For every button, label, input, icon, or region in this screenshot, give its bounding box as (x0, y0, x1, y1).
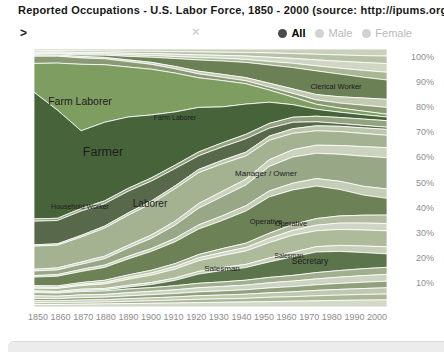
band-label-laborer: Laborer (133, 198, 168, 209)
toolbar: > × AllMaleFemale (0, 25, 444, 41)
filter-male-radio[interactable]: Male (315, 27, 352, 39)
band-label-manager-owner: Manager / Owner (235, 169, 297, 178)
band-label-clerical-worker: Clerical Worker (310, 82, 362, 91)
y-axis-tick: 30% (394, 228, 434, 238)
search-prompt: > (20, 26, 27, 40)
y-axis-tick: 80% (394, 102, 434, 112)
filter-female-radio[interactable]: Female (362, 27, 412, 39)
y-axis-tick: 50% (394, 178, 434, 188)
band-label-salesman: Salesman (204, 264, 240, 273)
band-label-farmer: Farmer (83, 145, 123, 159)
y-axis-tick: 70% (394, 127, 434, 137)
band-label-household-worker: Household Worker (51, 203, 110, 210)
filter-all-radio[interactable]: All (278, 27, 305, 39)
band-label-farm-laborer: Farm Laborer (48, 95, 112, 107)
stacked-area-chart[interactable]: Farm LaborerFarm LaborerFarmerHousehold … (34, 49, 387, 307)
y-axis-tick: 20% (394, 253, 434, 263)
filter-label: Male (328, 27, 352, 39)
y-axis-tick: 40% (394, 203, 434, 213)
filter-label: Female (375, 27, 412, 39)
clear-search-icon[interactable]: × (192, 25, 200, 39)
radio-dot-icon (278, 29, 287, 38)
radio-dot-icon (315, 29, 324, 38)
search-input[interactable] (33, 26, 187, 41)
x-axis-tick: 2000 (362, 312, 392, 322)
filter-label: All (291, 27, 305, 39)
y-axis-tick: 10% (394, 278, 434, 288)
footer-panel-edge (8, 341, 444, 352)
band-label-secretary: Secretary (292, 256, 329, 266)
band-label-farm-laborer: Farm Laborer (154, 114, 197, 121)
page-title: Reported Occupations - U.S. Labor Force,… (18, 4, 444, 16)
band-label-operative: Operative (275, 219, 308, 228)
y-axis-tick: 90% (394, 77, 434, 87)
gender-filter-group: AllMaleFemale (278, 25, 412, 41)
chart-area: Farm LaborerFarm LaborerFarmerHousehold … (34, 49, 387, 307)
radio-dot-icon (362, 29, 371, 38)
y-axis-tick: 60% (394, 152, 434, 162)
y-axis-tick: 100% (394, 52, 434, 62)
